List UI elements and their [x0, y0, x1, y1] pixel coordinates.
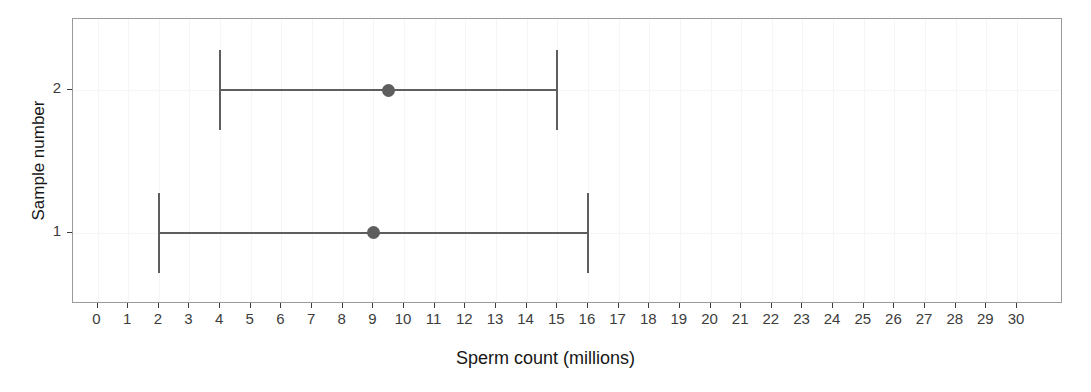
x-tick-mark: [679, 303, 680, 308]
x-tick-mark: [924, 303, 925, 308]
x-tick-mark: [771, 303, 772, 308]
gridline-vertical: [251, 19, 252, 302]
y-axis-title: Sample number: [26, 18, 52, 303]
x-tick-mark: [832, 303, 833, 308]
x-tick-mark: [556, 303, 557, 308]
gridline-vertical: [680, 19, 681, 302]
sperm-count-error-bar-chart: Sample number Sperm count (millions) 012…: [0, 0, 1091, 392]
gridline-vertical: [343, 19, 344, 302]
errorbar-cap-lower: [158, 193, 160, 273]
x-tick-mark: [188, 303, 189, 308]
errorbar-cap-upper: [587, 193, 589, 273]
x-tick-mark: [618, 303, 619, 308]
gridline-vertical: [312, 19, 313, 302]
x-tick-mark: [955, 303, 956, 308]
y-tick-label: 2: [37, 79, 61, 96]
y-tick-label: 1: [37, 222, 61, 239]
x-tick-mark: [587, 303, 588, 308]
gridline-vertical: [925, 19, 926, 302]
x-tick-mark: [280, 303, 281, 308]
x-tick-mark: [372, 303, 373, 308]
x-axis-title: Sperm count (millions): [0, 348, 1091, 369]
errorbar-cap-lower: [219, 50, 221, 130]
x-tick-mark: [127, 303, 128, 308]
x-tick-mark: [495, 303, 496, 308]
gridline-vertical: [98, 19, 99, 302]
gridline-vertical: [496, 19, 497, 302]
gridline-vertical: [404, 19, 405, 302]
x-tick-mark: [801, 303, 802, 308]
gridline-vertical: [373, 19, 374, 302]
point-marker: [367, 226, 380, 239]
point-marker: [382, 84, 395, 97]
gridline-vertical: [465, 19, 466, 302]
gridline-vertical: [711, 19, 712, 302]
x-tick-mark: [648, 303, 649, 308]
x-tick-mark: [1016, 303, 1017, 308]
plot-panel: [72, 18, 1062, 303]
x-tick-mark: [893, 303, 894, 308]
x-tick-mark: [250, 303, 251, 308]
gridline-vertical: [527, 19, 528, 302]
errorbar-cap-upper: [556, 50, 558, 130]
gridline-vertical: [986, 19, 987, 302]
gridline-vertical: [833, 19, 834, 302]
x-tick-mark: [464, 303, 465, 308]
gridline-vertical: [772, 19, 773, 302]
gridline-vertical: [128, 19, 129, 302]
x-tick-mark: [526, 303, 527, 308]
gridline-vertical: [956, 19, 957, 302]
x-tick-mark: [863, 303, 864, 308]
x-tick-mark: [342, 303, 343, 308]
gridline-vertical: [802, 19, 803, 302]
x-tick-mark: [311, 303, 312, 308]
gridline-vertical: [281, 19, 282, 302]
y-tick-mark: [67, 89, 72, 90]
gridline-vertical: [864, 19, 865, 302]
x-tick-mark: [434, 303, 435, 308]
x-tick-mark: [158, 303, 159, 308]
x-tick-mark: [403, 303, 404, 308]
x-tick-mark: [710, 303, 711, 308]
gridline-vertical: [619, 19, 620, 302]
x-tick-mark: [219, 303, 220, 308]
gridline-vertical: [649, 19, 650, 302]
gridline-vertical: [435, 19, 436, 302]
x-tick-label: 30: [996, 310, 1036, 327]
gridline-vertical: [741, 19, 742, 302]
y-tick-mark: [67, 232, 72, 233]
gridline-vertical: [189, 19, 190, 302]
gridline-vertical: [894, 19, 895, 302]
x-tick-mark: [97, 303, 98, 308]
x-tick-mark: [740, 303, 741, 308]
x-tick-mark: [985, 303, 986, 308]
gridline-vertical: [1017, 19, 1018, 302]
